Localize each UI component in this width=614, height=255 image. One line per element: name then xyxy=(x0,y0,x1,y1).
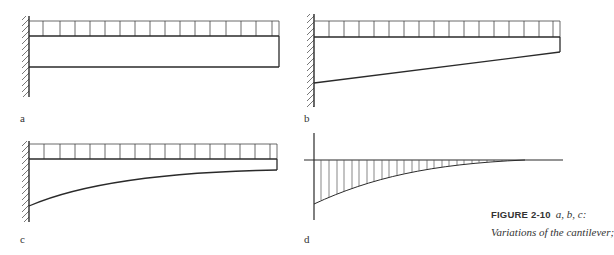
panel-b xyxy=(307,14,560,107)
figure-number: FIGURE 2-10 xyxy=(491,209,551,220)
panel-d xyxy=(304,133,563,220)
uniform-load xyxy=(314,21,560,37)
figure-subtitle: a, b, c: xyxy=(556,208,587,220)
panel-c xyxy=(22,141,277,222)
tapered-beam xyxy=(314,37,560,83)
curved-beam xyxy=(29,159,277,206)
panel-label-b: b xyxy=(304,112,310,124)
figure-caption: FIGURE 2-10a, b, c: xyxy=(491,208,586,220)
panel-label-d: d xyxy=(304,233,310,245)
moment-hatching xyxy=(321,160,502,200)
moment-curve xyxy=(314,160,525,204)
panel-a xyxy=(22,16,279,97)
wall-hatch xyxy=(307,14,314,107)
panel-label-c: c xyxy=(20,233,25,245)
beam xyxy=(29,36,279,67)
wall-hatch xyxy=(22,16,29,97)
uniform-load xyxy=(29,144,277,159)
uniform-load xyxy=(29,21,279,36)
wall-hatch xyxy=(22,141,29,222)
figure-caption-line2: Variations of the cantilever; xyxy=(491,226,614,238)
panel-label-a: a xyxy=(20,112,25,124)
